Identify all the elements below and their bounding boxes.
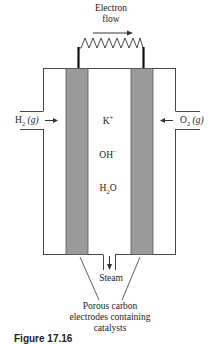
steam-outlet-arrow <box>107 256 112 270</box>
electrodes-line1: Porous carbon <box>70 301 151 312</box>
leader-line-right <box>122 257 140 300</box>
figure-caption: Figure 17.16 <box>14 333 72 344</box>
leader-line-left <box>80 257 99 300</box>
electrodes-description: Porous carbon electrodes containing cata… <box>70 301 151 334</box>
electron-flow-label: Electron flow <box>95 3 127 25</box>
cathode-electrode <box>131 69 153 255</box>
cell-housing <box>20 68 200 270</box>
electron-flow-line1: Electron <box>95 3 127 14</box>
hydroxide-ion-label: OH− <box>99 150 116 161</box>
potassium-ion-label: K+ <box>103 116 114 127</box>
electrodes-line2: electrodes containing <box>70 312 151 323</box>
water-label: H2O <box>100 183 117 194</box>
electron-flow-arrow <box>93 31 133 36</box>
electron-flow-line2: flow <box>95 14 127 25</box>
anode-electrode <box>66 69 88 255</box>
o2-inlet-arrow <box>160 118 173 123</box>
h2-inlet-label: H2 (g) <box>15 115 39 126</box>
resistor-load <box>78 38 143 48</box>
o2-inlet-label: O2 (g) <box>180 115 204 126</box>
steam-label: Steam <box>99 273 123 284</box>
electrodes-line3: catalysts <box>70 323 151 334</box>
h2-inlet-arrow <box>45 118 58 123</box>
